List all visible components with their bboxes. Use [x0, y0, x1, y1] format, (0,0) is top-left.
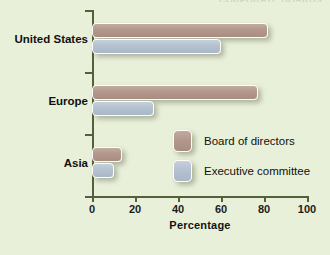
plot-area: United States Europe Asia 020406080100 P…	[0, 0, 330, 255]
x-axis-tick-label: 60	[215, 203, 227, 215]
bar-united-states-executive-committee	[92, 39, 221, 54]
x-axis-tick	[178, 196, 180, 202]
x-axis-tick-label: 40	[172, 203, 184, 215]
x-axis-tick	[221, 196, 223, 202]
legend-item-executive-committee: Executive committee	[173, 156, 310, 186]
x-axis-title: Percentage	[92, 219, 308, 231]
x-axis-tick-label: 100	[298, 203, 316, 215]
x-axis-tick	[307, 196, 309, 202]
bar-europe-executive-committee	[92, 101, 154, 116]
y-axis-tick	[85, 134, 93, 136]
legend-swatch-executive-committee	[173, 160, 192, 182]
category-label-asia: Asia	[64, 157, 88, 169]
bar-united-states-board-of-directors	[92, 23, 268, 38]
chart-container: CORPORATE BOARDS United States Europe As…	[0, 0, 330, 255]
x-axis-line	[92, 196, 308, 198]
x-axis-tick-label: 80	[258, 203, 270, 215]
chart-legend: Board of directors Executive committee	[173, 126, 310, 186]
legend-label-executive-committee: Executive committee	[204, 165, 310, 177]
x-axis-tick	[264, 196, 266, 202]
bar-asia-board-of-directors	[92, 147, 122, 162]
x-axis-tick-label: 0	[89, 203, 95, 215]
y-axis-tick	[85, 72, 93, 74]
category-label-europe: Europe	[48, 95, 88, 107]
bar-europe-board-of-directors	[92, 85, 258, 100]
bar-asia-executive-committee	[92, 163, 114, 178]
x-axis-tick	[135, 196, 137, 202]
category-label-united-states: United States	[15, 33, 89, 45]
x-axis-tick	[92, 196, 94, 202]
y-axis-tick	[85, 10, 93, 12]
legend-label-board-of-directors: Board of directors	[204, 135, 295, 147]
legend-item-board-of-directors: Board of directors	[173, 126, 310, 156]
x-axis-tick-label: 20	[129, 203, 141, 215]
legend-swatch-board-of-directors	[173, 130, 192, 152]
